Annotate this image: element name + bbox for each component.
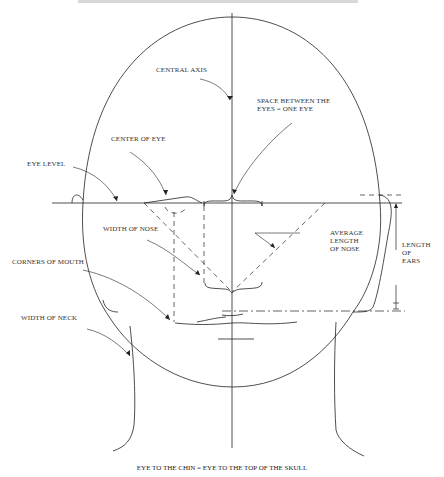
caption: EYE TO THE CHIN = EYE TO THE TOP OF THE …	[0, 464, 444, 472]
eye-space-brace	[204, 195, 262, 206]
label-space-between-eyes: SPACE BETWEEN THE EYES = ONE EYE	[257, 97, 330, 113]
mouth-line	[175, 322, 297, 325]
label-average-length-of-nose: AVERAGE LENGTH OF NOSE	[330, 229, 363, 253]
right-ear	[353, 195, 391, 312]
leader-avg-nose	[255, 233, 300, 248]
label-corners-of-mouth: CORNERS OF MOUTH	[12, 258, 84, 266]
label-center-of-eye: CENTER OF EYE	[111, 135, 166, 143]
lip-top	[222, 314, 243, 316]
nose-brace	[205, 282, 262, 293]
eye-circle-dashed	[165, 207, 186, 213]
leader-central-axis	[200, 79, 230, 100]
leader-center-of-eye	[130, 152, 166, 195]
label-length-of-ears: LENGTH OF EARS	[402, 241, 431, 265]
nose-diagonal-right	[232, 203, 325, 292]
neck-right	[335, 322, 365, 456]
leader-width-of-nose	[147, 240, 200, 275]
label-width-of-neck: WIDTH OF NECK	[21, 314, 77, 322]
label-eye-level: EYE LEVEL	[27, 160, 65, 168]
left-ear	[72, 195, 83, 203]
face-proportions-drawing	[0, 0, 444, 477]
nose-diagonal-left	[144, 203, 232, 292]
upper-lip	[197, 317, 226, 322]
head-outline	[82, 17, 380, 387]
label-central-axis: CENTRAL AXIS	[156, 66, 207, 74]
leader-eye-space	[234, 123, 292, 194]
leader-corners-mouth	[83, 270, 170, 320]
label-width-of-nose: WIDTH OF NOSE	[103, 225, 158, 233]
left-eye-lid	[144, 197, 202, 203]
leader-width-of-neck	[87, 329, 130, 356]
